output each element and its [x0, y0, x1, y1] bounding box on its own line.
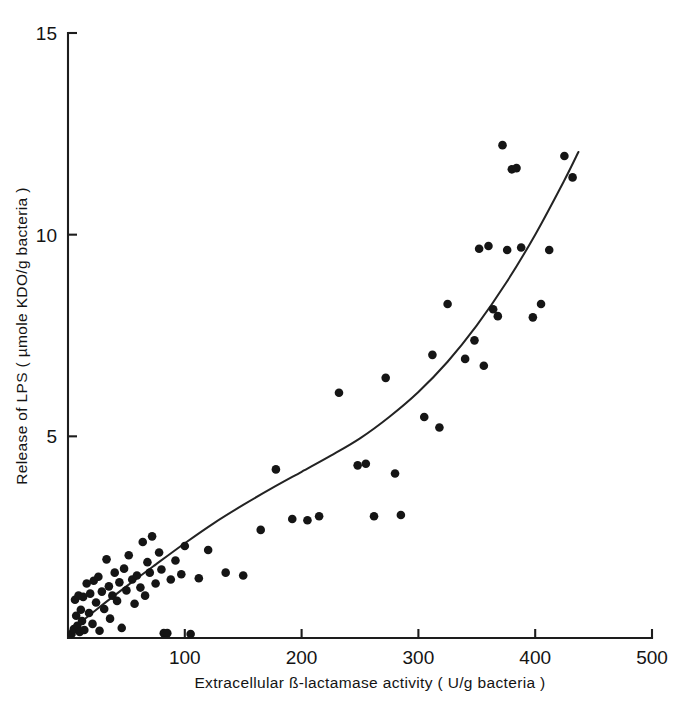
chart-figure: 10020030040050051015 Extracellular ß-lac…: [0, 0, 683, 706]
scatter-plot: 10020030040050051015 Extracellular ß-lac…: [0, 0, 683, 706]
data-point-0-43: [157, 565, 166, 574]
x-tick-label-400: 400: [519, 647, 551, 668]
data-point-0-78: [498, 141, 507, 150]
data-point-0-52: [204, 546, 213, 555]
data-point-0-81: [512, 164, 521, 173]
data-point-0-61: [353, 461, 362, 470]
x-tick-label-300: 300: [403, 647, 435, 668]
data-point-0-50: [186, 630, 195, 639]
data-point-0-21: [102, 555, 111, 564]
data-point-0-86: [560, 152, 569, 161]
axis-ticks: [68, 33, 652, 638]
data-point-0-42: [155, 548, 164, 557]
data-point-0-54: [239, 571, 248, 580]
data-point-0-57: [288, 515, 297, 524]
data-point-0-30: [122, 586, 131, 595]
data-point-0-72: [470, 336, 479, 345]
data-point-0-33: [130, 599, 139, 608]
data-point-0-69: [435, 423, 444, 432]
x-axis-label: Extracellular ß-lactamase activity ( U/g…: [194, 674, 545, 691]
data-point-0-77: [494, 312, 503, 321]
data-point-0-48: [177, 570, 186, 579]
data-point-0-59: [315, 512, 324, 521]
data-point-0-41: [151, 579, 160, 588]
data-point-0-7: [77, 605, 86, 614]
data-point-0-84: [537, 300, 546, 309]
y-tick-label-15: 15: [36, 23, 57, 44]
x-tick-label-100: 100: [169, 647, 201, 668]
data-point-0-65: [391, 469, 400, 478]
x-tick-label-200: 200: [286, 647, 318, 668]
data-point-0-22: [105, 582, 114, 591]
data-point-0-29: [120, 564, 129, 573]
data-point-0-62: [362, 459, 371, 468]
data-point-0-40: [148, 532, 157, 541]
data-point-0-58: [303, 516, 312, 525]
data-point-0-12: [85, 609, 94, 618]
data-point-0-60: [335, 388, 344, 397]
axis-lines: [68, 33, 652, 638]
data-point-0-67: [420, 413, 429, 422]
data-point-0-68: [428, 351, 437, 360]
data-point-0-28: [117, 624, 126, 633]
data-point-0-37: [141, 591, 150, 600]
data-point-0-36: [138, 538, 147, 547]
data-point-0-8: [78, 617, 87, 626]
y-axis-label: Release of LPS ( µmole KDO/g bacteria ): [13, 187, 30, 484]
data-point-0-20: [100, 605, 109, 614]
axis-tick-labels: 10020030040050051015: [36, 23, 668, 668]
data-point-0-16: [92, 598, 101, 607]
data-point-0-35: [136, 583, 145, 592]
data-point-0-87: [568, 173, 577, 182]
data-point-0-27: [115, 578, 124, 587]
data-point-0-14: [88, 620, 97, 629]
data-point-0-51: [195, 574, 204, 583]
data-points: [67, 141, 577, 638]
data-point-0-64: [381, 374, 390, 383]
data-point-0-39: [145, 568, 154, 577]
data-point-0-53: [221, 568, 230, 577]
data-point-0-85: [545, 246, 554, 255]
data-point-0-19: [98, 587, 107, 596]
data-point-0-47: [171, 556, 180, 565]
data-point-0-63: [370, 512, 379, 521]
data-point-0-31: [124, 551, 133, 560]
axes: [68, 33, 652, 638]
data-point-0-13: [86, 589, 95, 598]
data-point-0-82: [517, 243, 526, 252]
data-point-0-23: [106, 614, 115, 623]
data-point-0-75: [484, 242, 493, 251]
data-point-0-73: [475, 244, 484, 253]
data-point-0-10: [80, 626, 89, 635]
data-point-0-17: [94, 572, 103, 581]
data-point-0-74: [480, 361, 489, 370]
data-point-0-46: [166, 575, 175, 584]
data-point-0-56: [272, 465, 281, 474]
data-point-0-71: [461, 355, 470, 364]
data-point-0-25: [110, 568, 119, 577]
x-tick-label-500: 500: [636, 647, 668, 668]
data-point-0-34: [133, 571, 142, 580]
data-point-0-45: [163, 629, 172, 638]
y-tick-label-10: 10: [36, 225, 57, 246]
y-tick-label-5: 5: [46, 426, 57, 447]
data-point-0-66: [397, 511, 406, 520]
data-point-0-79: [503, 246, 512, 255]
data-point-0-26: [113, 597, 122, 606]
data-point-0-70: [443, 300, 452, 309]
data-point-0-38: [143, 558, 152, 567]
data-point-0-55: [256, 526, 265, 535]
data-point-0-49: [181, 542, 190, 551]
data-point-0-18: [95, 626, 104, 635]
data-point-0-83: [529, 313, 538, 322]
